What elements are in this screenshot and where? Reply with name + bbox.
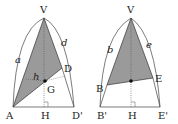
point-G [43, 79, 47, 83]
right-angle-H [44, 102, 48, 107]
label-E-prime: E' [158, 110, 168, 121]
label-D: D [64, 63, 72, 74]
right-angle-H-right [131, 102, 135, 107]
label-e: e [146, 39, 152, 50]
geometry-diagram: V A H D' D G a d h V B E B' H E' b e [0, 0, 178, 124]
label-E: E [155, 73, 162, 84]
label-A: A [5, 110, 14, 121]
label-H-left: H [41, 110, 50, 121]
label-D-prime: D' [72, 110, 83, 121]
left-figure: V A H D' D G a d h [5, 4, 83, 121]
right-figure: V B E B' H E' b e [96, 4, 168, 121]
label-B-prime: B' [97, 110, 107, 121]
label-H-right: H [128, 110, 137, 121]
label-V-left: V [39, 4, 48, 15]
label-V-right: V [126, 4, 135, 15]
label-d: d [61, 37, 67, 48]
point-G-right [129, 79, 133, 83]
shaded-triangle-VBE [107, 18, 153, 85]
label-B: B [96, 83, 103, 94]
label-b: b [107, 44, 113, 55]
label-G: G [47, 84, 55, 95]
label-a: a [15, 54, 21, 65]
label-h: h [33, 71, 39, 82]
